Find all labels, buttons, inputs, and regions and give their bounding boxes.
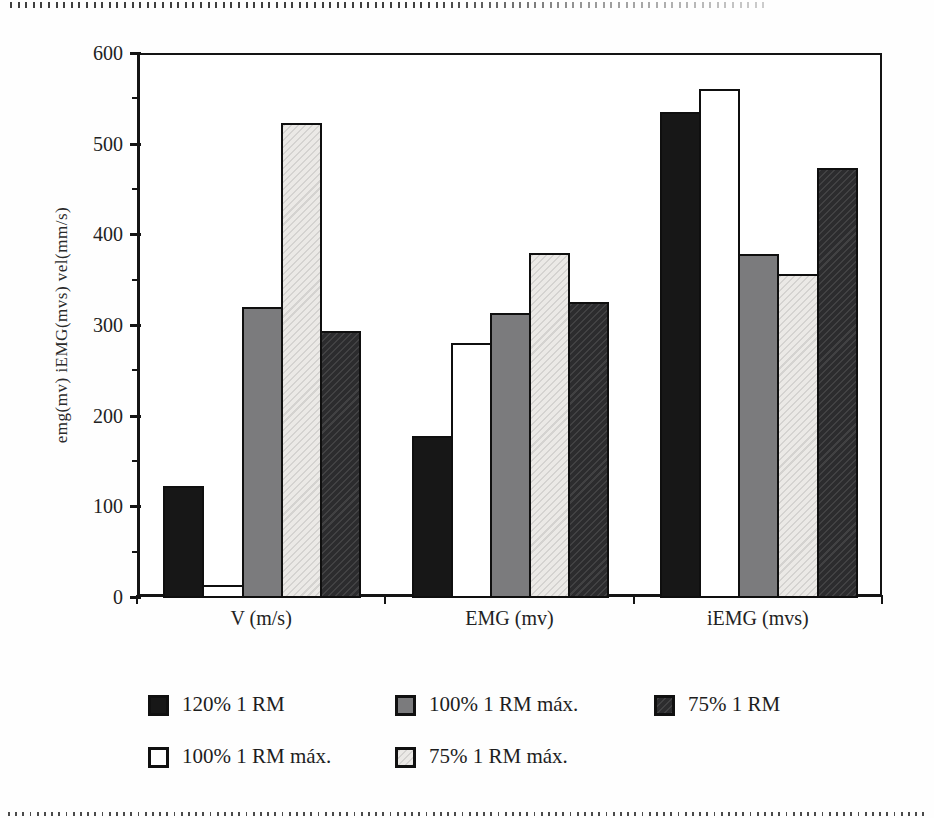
- bar-black-cat2: [660, 112, 701, 598]
- x-boundary-tick: [633, 595, 635, 604]
- scanned-page: emg(mv) iEMG(mvs) vel(mm/s) 010020030040…: [0, 0, 934, 818]
- bar-gray-cat2: [738, 254, 779, 598]
- legend-label: 100% 1 RM máx.: [429, 692, 578, 717]
- x-category-label: V (m/s): [151, 607, 371, 630]
- y-minor-tick: [132, 551, 139, 553]
- y-major-tick: [130, 505, 141, 508]
- y-tick-label: 300: [63, 315, 123, 335]
- y-tick-label: 200: [63, 406, 123, 426]
- y-minor-tick: [132, 97, 139, 99]
- top-dotted-divider: [10, 2, 768, 8]
- bar-dark-cat2: [817, 168, 858, 598]
- bar-white-cat0: [202, 585, 243, 598]
- y-major-tick: [130, 324, 141, 327]
- bar-black-cat0: [163, 486, 204, 598]
- legend-label: 120% 1 RM: [182, 692, 285, 717]
- legend-label: 75% 1 RM: [688, 692, 780, 717]
- bar-light-cat2: [777, 274, 818, 598]
- y-major-tick: [130, 52, 141, 55]
- bar-light-cat0: [281, 123, 322, 598]
- x-boundary-tick: [136, 595, 138, 604]
- bar-gray-cat0: [242, 307, 283, 598]
- bar-dark-cat0: [320, 331, 361, 598]
- y-tick-label: 400: [63, 224, 123, 244]
- bar-white-cat1: [451, 343, 492, 598]
- bar-dark-cat1: [568, 302, 609, 598]
- legend-swatch-black: [148, 695, 169, 716]
- y-major-tick: [130, 233, 141, 236]
- y-minor-tick: [132, 188, 139, 190]
- legend-swatch-gray: [395, 695, 416, 716]
- x-category-label: EMG (mv): [400, 607, 620, 630]
- y-minor-tick: [132, 369, 139, 371]
- x-boundary-tick: [384, 595, 386, 604]
- legend-swatch-white: [148, 747, 169, 768]
- bar-gray-cat1: [490, 313, 531, 598]
- bottom-dotted-divider: [8, 812, 930, 816]
- y-major-tick: [130, 415, 141, 418]
- legend-label: 100% 1 RM máx.: [182, 744, 331, 769]
- y-tick-label: 0: [63, 587, 123, 607]
- x-boundary-tick: [881, 595, 883, 604]
- y-minor-tick: [132, 279, 139, 281]
- x-category-label: iEMG (mvs): [648, 607, 868, 630]
- y-tick-label: 100: [63, 496, 123, 516]
- legend-swatch-dark: [654, 695, 675, 716]
- bar-black-cat1: [412, 436, 453, 598]
- bar-white-cat2: [699, 89, 740, 598]
- y-tick-label: 500: [63, 134, 123, 154]
- legend-swatch-light: [395, 747, 416, 768]
- legend-label: 75% 1 RM máx.: [429, 744, 568, 769]
- y-major-tick: [130, 143, 141, 146]
- bar-light-cat1: [529, 253, 570, 598]
- y-tick-label: 600: [63, 43, 123, 63]
- y-minor-tick: [132, 460, 139, 462]
